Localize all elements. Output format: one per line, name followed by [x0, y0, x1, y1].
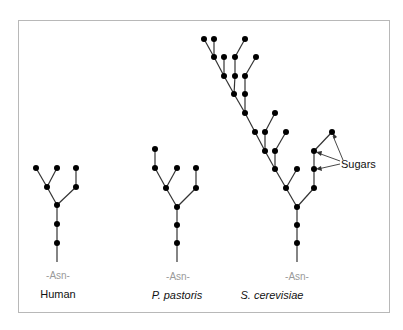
cerevisiae-label: S. cerevisiae: [241, 289, 304, 301]
pastoris-label: P. pastoris: [152, 289, 203, 301]
cerevisiae-asn-label: -Asn-: [285, 271, 309, 282]
human-label: Human: [40, 288, 75, 300]
human-asn-label: -Asn-: [46, 270, 70, 281]
sugars-annotation: Sugars: [341, 158, 376, 170]
pastoris-asn-label: -Asn-: [166, 271, 190, 282]
sugar-nodes: [33, 36, 335, 246]
human-glycan-edges: [36, 168, 76, 262]
sugars-arrows: [318, 136, 343, 169]
